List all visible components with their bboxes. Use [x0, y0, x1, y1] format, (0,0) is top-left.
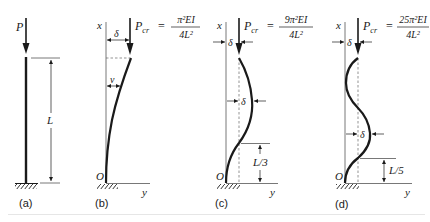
column-buckling-diagram: P L (a) x y O Pcr = π²EI 4L² δ [0, 0, 430, 222]
ground-hatch [217, 184, 240, 189]
panel-c: x y O Pcr = 9π²EI 4L² δ δ L/3 (c) [213, 14, 313, 209]
length-label: L [46, 114, 53, 126]
formula-numerator: 25π²EI [399, 14, 427, 25]
y-axis-label: y [404, 186, 410, 198]
delta-mid-label: δ [241, 96, 246, 107]
formula-denominator: 4L² [289, 29, 304, 40]
panel-label: (b) [95, 197, 108, 209]
x-axis-label: x [96, 19, 102, 31]
formula-denominator: 4L² [179, 29, 194, 40]
load-formula-lhs: Pcr [362, 19, 378, 35]
formula-equals: = [267, 19, 274, 33]
formula-numerator: 9π²EI [285, 14, 308, 25]
origin-label: O [96, 170, 104, 182]
y-axis-label: y [269, 186, 275, 198]
buckled-column [345, 58, 370, 183]
ground-hatch [336, 184, 359, 189]
panel-label: (c) [215, 197, 228, 209]
ground-hatch [15, 184, 37, 189]
load-arrowhead-icon [127, 43, 134, 55]
segment-label: L/5 [388, 164, 404, 176]
formula-numerator: π²EI [177, 14, 195, 25]
load-label: P [15, 20, 24, 34]
deflection-label: v [110, 74, 115, 85]
formula-equals: = [158, 19, 165, 33]
panel-label: (a) [19, 197, 32, 209]
segment-label: L/3 [252, 156, 268, 168]
panel-label: (d) [335, 198, 348, 210]
panel-d: x y O Pcr = 25π²EI 4L² δ δ L/5 (d) [332, 14, 429, 210]
x-axis-label: x [216, 19, 222, 31]
formula-denominator: 4L² [406, 29, 421, 40]
origin-label: O [335, 170, 343, 182]
load-arrowhead-icon [236, 43, 243, 55]
origin-label: O [216, 170, 224, 182]
delta-top-label: δ [228, 37, 233, 48]
formula-equals: = [386, 19, 393, 33]
load-formula-lhs: Pcr [134, 19, 150, 35]
y-axis-label: y [141, 186, 147, 198]
panel-b: x y O Pcr = π²EI 4L² δ v (b) [95, 14, 200, 209]
panel-a: P L (a) [15, 18, 60, 209]
x-axis-label: x [335, 19, 341, 31]
load-arrowhead-icon [23, 43, 30, 54]
ground-hatch [97, 184, 118, 189]
load-formula-lhs: Pcr [243, 19, 259, 35]
delta-top-label: δ [347, 37, 352, 48]
delta-mid-label: δ [360, 129, 365, 140]
delta-label: δ [114, 28, 119, 39]
load-arrowhead-icon [355, 43, 362, 55]
